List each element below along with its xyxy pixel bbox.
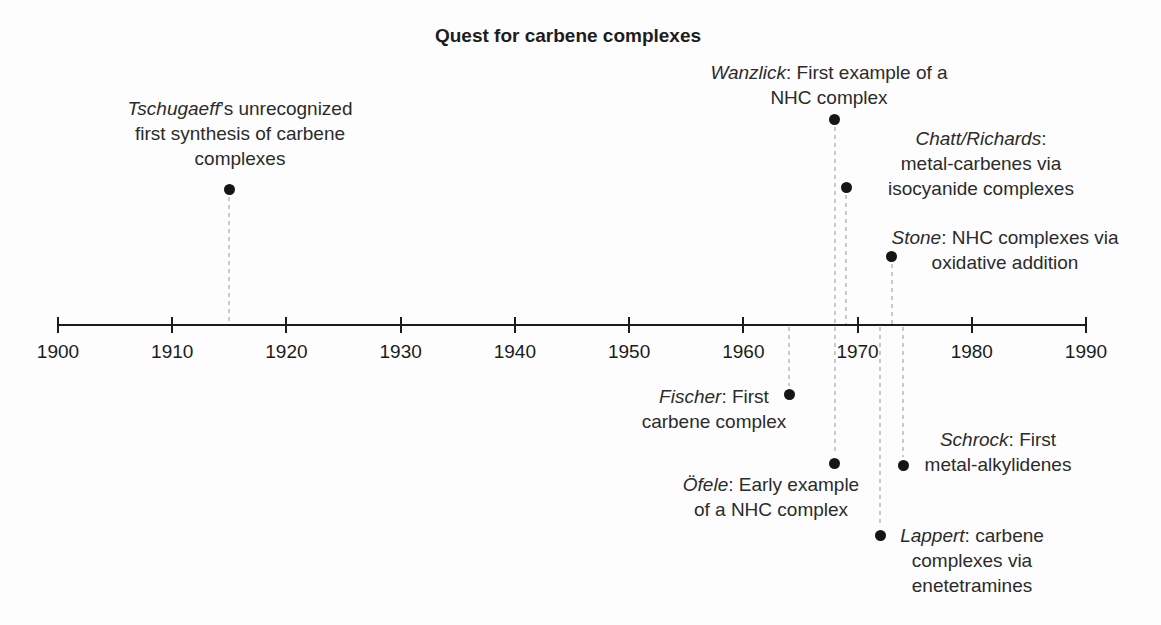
event-label-chatt-richards: Chatt/Richards:metal-carbenes viaisocyan… — [888, 126, 1074, 201]
event-label-line: Lappert: carbene — [900, 523, 1044, 548]
event-label-line: Stone: NHC complexes via — [891, 225, 1118, 250]
leader-line-wanzlick — [834, 127, 836, 324]
axis-tick-label-1900: 1900 — [37, 341, 79, 363]
axis-tick-label-1990: 1990 — [1065, 341, 1107, 363]
leader-line-fischer — [788, 327, 790, 386]
axis-tick-1950 — [628, 317, 630, 333]
event-label-line: isocyanide complexes — [888, 176, 1074, 201]
event-dot-wanzlick — [829, 114, 840, 125]
event-label-line: of a NHC complex — [683, 497, 859, 522]
axis-tick-label-1960: 1960 — [722, 341, 764, 363]
axis-tick-label-1970: 1970 — [836, 341, 878, 363]
event-label-line: oxidative addition — [891, 250, 1118, 275]
event-dot-lappert — [875, 530, 886, 541]
event-label-line: enetetramines — [900, 573, 1044, 598]
event-label-tschugaeff: Tschugaeff’s unrecognizedfirst synthesis… — [127, 96, 352, 171]
event-label-line: complexes via — [900, 548, 1044, 573]
event-label-line: NHC complex — [710, 85, 947, 110]
axis-tick-1930 — [400, 317, 402, 333]
event-dot-chatt-richards — [841, 182, 852, 193]
event-label-line: Wanzlick: First example of a — [710, 60, 947, 85]
leader-line-lappert — [879, 327, 881, 527]
axis-tick-1920 — [285, 317, 287, 333]
event-label-line: metal-alkylidenes — [925, 452, 1072, 477]
event-label-schrock: Schrock: Firstmetal-alkylidenes — [925, 427, 1072, 477]
event-label-wanzlick: Wanzlick: First example of aNHC complex — [710, 60, 947, 110]
event-label-line: complexes — [127, 146, 352, 171]
axis-tick-label-1920: 1920 — [265, 341, 307, 363]
leader-line-chatt-richards — [845, 195, 847, 324]
event-label-line: metal-carbenes via — [888, 151, 1074, 176]
axis-tick-1980 — [971, 317, 973, 333]
event-dot-tschugaeff — [224, 184, 235, 195]
figure-title: Quest for carbene complexes — [435, 25, 701, 47]
axis-tick-1940 — [514, 317, 516, 333]
leader-line-ofele — [834, 327, 836, 455]
event-label-line: carbene complex — [642, 409, 787, 434]
event-dot-ofele — [829, 458, 840, 469]
event-label-line: Tschugaeff’s unrecognized — [127, 96, 352, 121]
axis-tick-label-1940: 1940 — [494, 341, 536, 363]
axis-tick-1900 — [57, 317, 59, 333]
axis-tick-1990 — [1085, 317, 1087, 333]
axis-tick-1960 — [742, 317, 744, 333]
timeline-axis-line — [58, 324, 1086, 326]
event-label-line: Schrock: First — [925, 427, 1072, 452]
event-label-line: Chatt/Richards: — [888, 126, 1074, 151]
axis-tick-label-1950: 1950 — [608, 341, 650, 363]
leader-line-tschugaeff — [228, 197, 230, 324]
event-label-fischer: Fischer: Firstcarbene complex — [642, 384, 787, 434]
event-label-line: Fischer: First — [642, 384, 787, 409]
timeline-figure: Quest for carbene complexes 190019101920… — [0, 0, 1161, 625]
axis-tick-1970 — [857, 317, 859, 333]
axis-tick-1910 — [171, 317, 173, 333]
event-label-stone: Stone: NHC complexes viaoxidative additi… — [891, 225, 1118, 275]
event-label-line: first synthesis of carbene — [127, 121, 352, 146]
event-label-line: Öfele: Early example — [683, 472, 859, 497]
event-label-ofele: Öfele: Early exampleof a NHC complex — [683, 472, 859, 522]
leader-line-schrock — [902, 327, 904, 457]
axis-tick-label-1930: 1930 — [380, 341, 422, 363]
event-label-lappert: Lappert: carbenecomplexes viaenetetramin… — [900, 523, 1044, 598]
axis-tick-label-1910: 1910 — [151, 341, 193, 363]
axis-tick-label-1980: 1980 — [951, 341, 993, 363]
event-dot-schrock — [898, 460, 909, 471]
